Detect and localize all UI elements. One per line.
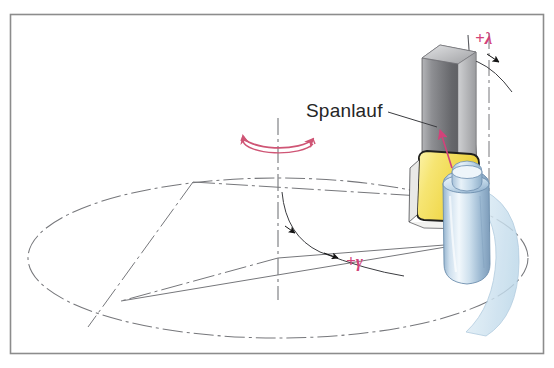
rake-angle-arc — [282, 192, 404, 276]
cutting-tool-cylinder — [443, 161, 490, 284]
rake-angle-label: +γ — [346, 252, 364, 271]
chord-plane-edge — [121, 243, 470, 301]
technical-diagram-figure: Spanlauf +λ +γ — [0, 0, 554, 368]
chord-lower-left — [121, 258, 278, 301]
diagram-canvas: Spanlauf +λ +γ — [0, 0, 554, 368]
inclination-angle-label: +λ — [475, 29, 493, 48]
chord-to-tool — [278, 243, 470, 258]
chord-upper-right — [193, 182, 437, 197]
chord-left — [88, 182, 193, 327]
page-title: Spanlauf — [306, 100, 383, 121]
